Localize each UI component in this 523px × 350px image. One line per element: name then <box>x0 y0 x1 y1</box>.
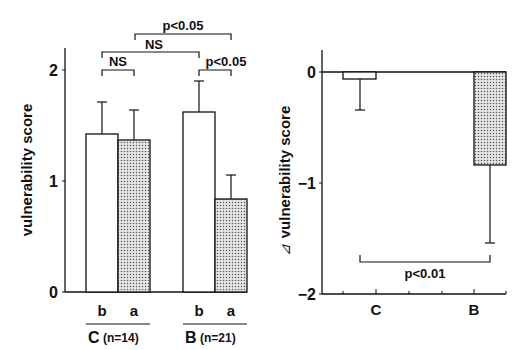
bracket-ns-small <box>102 70 134 76</box>
annotation-p-001: p<0.01 <box>405 266 446 281</box>
bar-c-a <box>118 140 150 292</box>
group-label-c: C <box>88 329 100 346</box>
right-chart: 0 −1 −2 C B ⊿ vulnerability score p<0.01 <box>276 50 506 318</box>
y-tick-label: −1 <box>298 175 316 192</box>
bar-c-b <box>86 134 118 292</box>
group-n-c: (n=14) <box>103 331 139 345</box>
group-n-b: (n=21) <box>200 331 236 345</box>
annotation-ns-small: NS <box>109 54 127 69</box>
bar-b-a <box>215 199 247 292</box>
bar-b-b <box>183 112 215 292</box>
x-label-c: C <box>371 301 382 318</box>
bar-b <box>474 72 506 165</box>
bar-c <box>343 72 376 79</box>
bracket-p-small <box>199 70 231 76</box>
right-y-axis-label: vulnerability score <box>276 106 293 239</box>
bar-label: b <box>97 302 106 319</box>
left-chart: 0 1 2 vulnerability score b a b a C (n=1… <box>18 18 247 346</box>
bar-label: b <box>194 302 203 319</box>
x-label-b: B <box>469 301 480 318</box>
annotation-p-top: p<0.05 <box>163 18 204 33</box>
bar-label: a <box>227 302 236 319</box>
left-y-axis-label: vulnerability score <box>18 104 35 237</box>
y-tick-label: −2 <box>298 286 316 303</box>
y-tick-label: 0 <box>307 64 316 81</box>
bar-label: a <box>130 302 139 319</box>
group-label-b: B <box>185 329 197 346</box>
y-tick-label: 1 <box>49 173 58 190</box>
y-tick-label: 2 <box>49 62 58 79</box>
annotation-p-small: p<0.05 <box>206 54 247 69</box>
y-tick-label: 0 <box>49 284 58 301</box>
annotation-ns-mid: NS <box>145 37 163 52</box>
figure: 0 1 2 vulnerability score b a b a C (n=1… <box>0 0 523 350</box>
delta-symbol: ⊿ <box>277 244 293 256</box>
bracket-p-001 <box>360 255 490 262</box>
